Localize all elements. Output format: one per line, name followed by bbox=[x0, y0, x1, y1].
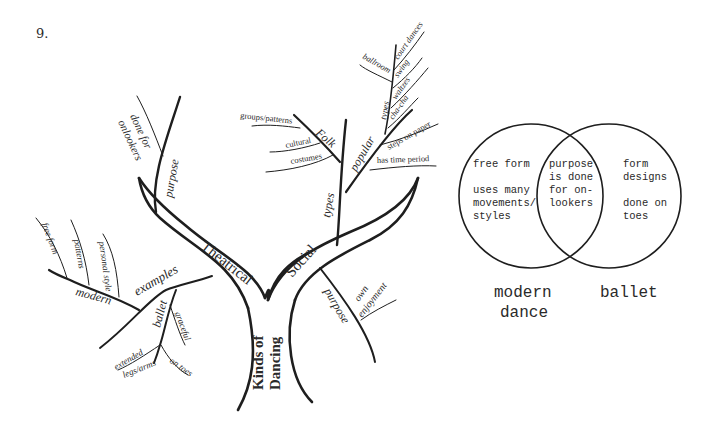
venn-left-text: free form uses many movements/ styles bbox=[473, 158, 536, 222]
groups-patterns-line bbox=[252, 125, 300, 128]
venn-right-line-2: designs bbox=[623, 171, 667, 183]
ballroom-label: ballroom bbox=[361, 51, 393, 75]
trunk-right-edge bbox=[290, 300, 312, 402]
venn-left-line-3: uses many bbox=[473, 184, 530, 196]
cultural-label: cultural bbox=[284, 135, 312, 150]
venn-overlap-text: purpose is done for on- lookers bbox=[549, 158, 593, 209]
tree-diagram: Kinds of Dancing Theatrical Social purpo… bbox=[36, 19, 438, 410]
social-types-label: types bbox=[319, 191, 337, 218]
court-dances-label: court dances bbox=[391, 19, 425, 61]
venn-label-modern: modern bbox=[494, 284, 552, 302]
diagram-canvas: 9. bbox=[0, 0, 714, 426]
venn-label-ballet: ballet bbox=[600, 284, 658, 302]
groups-patterns-label: groups/patterns bbox=[240, 110, 293, 125]
venn-right-line-5: toes bbox=[623, 210, 648, 222]
venn-right-line-1: form bbox=[623, 158, 648, 170]
venn-overlap-line-2: is done bbox=[549, 171, 593, 183]
venn-diagram: free form uses many movements/ styles pu… bbox=[459, 124, 681, 322]
personal-style-label: personal style bbox=[97, 240, 114, 292]
patterns-label: patterns bbox=[72, 238, 87, 270]
problem-number: 9. bbox=[36, 26, 48, 41]
social-band-upper-line bbox=[268, 178, 418, 300]
venn-circle-ballet bbox=[537, 124, 681, 268]
graceful-label: graceful bbox=[173, 310, 193, 342]
venn-overlap-line-1: purpose bbox=[549, 158, 593, 170]
venn-circle-modern-dance bbox=[459, 124, 603, 268]
venn-left-line-4: movements/ bbox=[473, 197, 536, 209]
folk-label: Folk bbox=[312, 125, 339, 151]
trunk-label-line1: Kinds of bbox=[250, 334, 266, 390]
venn-left-line-5: styles bbox=[473, 210, 511, 222]
trunk-label-line2: Dancing bbox=[267, 336, 283, 390]
venn-right-line-4: done on bbox=[623, 197, 667, 209]
steps-on-paper-label: steps on paper bbox=[385, 119, 432, 152]
on-toes-label: on toes bbox=[168, 355, 195, 378]
has-time-period-label: has time period bbox=[377, 153, 430, 165]
ballet-label: ballet bbox=[149, 298, 170, 329]
venn-left-line-1: free form bbox=[473, 158, 530, 170]
venn-overlap-line-3: for on- bbox=[549, 184, 593, 196]
costumes-label: costumes bbox=[290, 151, 323, 166]
theatrical-purpose-label: purpose bbox=[161, 157, 182, 199]
has-time-period-line bbox=[370, 166, 436, 170]
venn-label-dance: dance bbox=[500, 304, 548, 322]
examples-label: examples bbox=[131, 261, 180, 298]
venn-overlap-line-4: lookers bbox=[549, 197, 593, 209]
venn-right-text: form designs done on toes bbox=[623, 158, 667, 222]
social-band-lower-line bbox=[295, 178, 418, 300]
theatrical-label: Theatrical bbox=[198, 238, 256, 288]
free-form-label: free form bbox=[40, 221, 61, 256]
